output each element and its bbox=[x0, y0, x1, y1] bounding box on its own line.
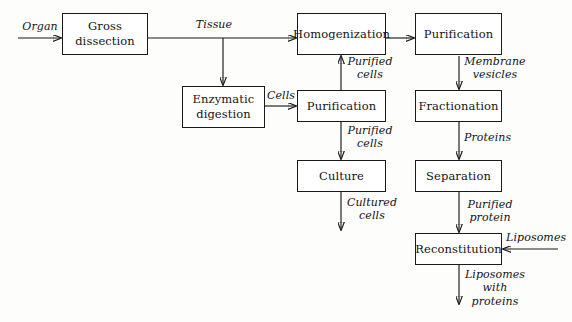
edge-label-cultured-cells: Cultured cells bbox=[346, 196, 398, 223]
node-culture-label: Culture bbox=[316, 169, 367, 184]
edge-label-cells: Cells bbox=[264, 89, 298, 102]
node-separation[interactable]: Separation bbox=[415, 160, 502, 192]
edge-label-liposomes: Liposomes bbox=[506, 231, 570, 244]
node-homogenization[interactable]: Homogenization bbox=[297, 13, 386, 55]
node-gross-dissection[interactable]: Gross dissection bbox=[62, 13, 148, 55]
edge-label-tissue: Tissue bbox=[186, 18, 242, 31]
edge-label-organ: Organ bbox=[18, 20, 62, 33]
node-purification-membrane[interactable]: Purification bbox=[415, 13, 502, 55]
node-homogenization-label: Homogenization bbox=[290, 27, 393, 42]
node-fractionation-label: Fractionation bbox=[415, 99, 501, 114]
node-enzymatic-digestion[interactable]: Enzymatic digestion bbox=[182, 86, 265, 128]
node-reconstitution-label: Reconstitution bbox=[412, 242, 505, 257]
flowchart-canvas: Gross dissection Enzymatic digestion Hom… bbox=[0, 0, 572, 322]
edge-label-proteins: Proteins bbox=[464, 131, 522, 144]
node-separation-label: Separation bbox=[423, 169, 494, 184]
node-reconstitution[interactable]: Reconstitution bbox=[415, 233, 502, 265]
node-fractionation[interactable]: Fractionation bbox=[415, 90, 502, 122]
node-purification-cells[interactable]: Purification bbox=[297, 90, 386, 122]
node-culture[interactable]: Culture bbox=[297, 160, 386, 192]
node-enzymatic-digestion-label: Enzymatic digestion bbox=[190, 92, 258, 121]
edge-label-purified-cells-down: Purified cells bbox=[346, 124, 394, 151]
edge-label-purified-cells-up: Purified cells bbox=[346, 55, 394, 82]
node-purification-cells-label: Purification bbox=[304, 99, 379, 114]
edge-label-purified-protein: Purified protein bbox=[464, 198, 516, 225]
node-gross-dissection-label: Gross dissection bbox=[72, 19, 138, 48]
node-purification-membrane-label: Purification bbox=[421, 27, 496, 42]
edge-label-membrane-vesicles: Membrane vesicles bbox=[464, 55, 526, 82]
edge-label-liposomes-with-proteins: Liposomes with proteins bbox=[464, 268, 526, 308]
